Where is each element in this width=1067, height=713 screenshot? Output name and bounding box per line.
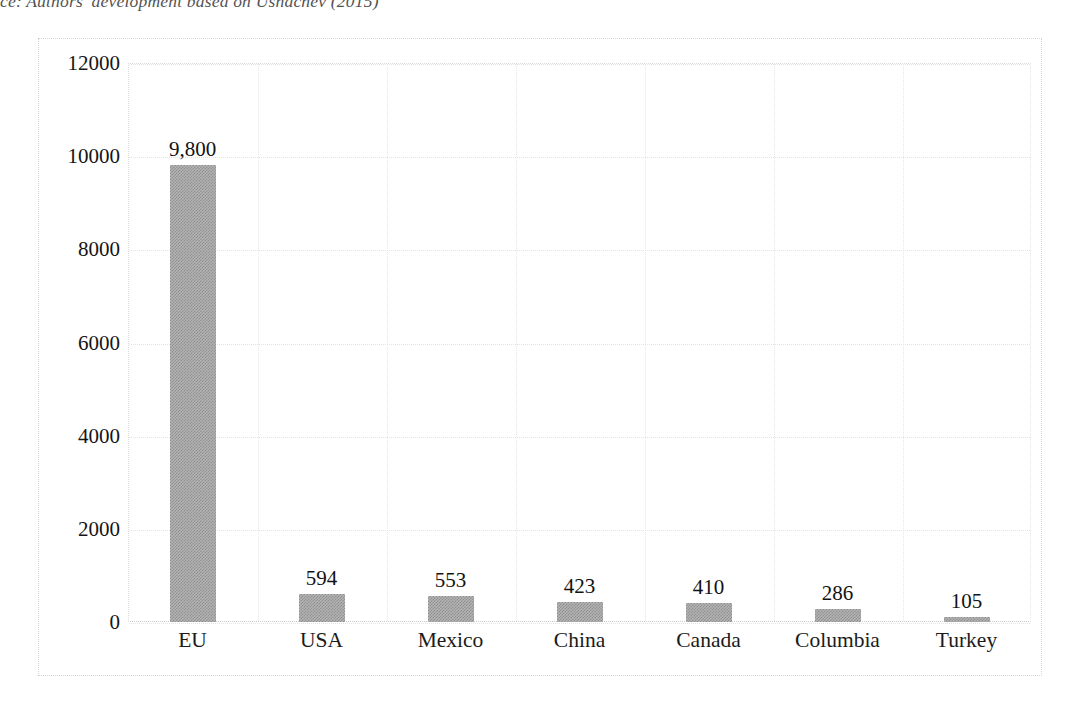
bar-slot: 553 bbox=[386, 63, 515, 622]
bar[interactable]: 423 bbox=[557, 602, 603, 622]
bar[interactable]: 594 bbox=[299, 594, 345, 622]
x-axis: EUUSAMexicoChinaCanadaColumbiaTurkey bbox=[128, 630, 1031, 652]
bar-slot: 594 bbox=[257, 63, 386, 622]
x-axis-tick-label: Canada bbox=[644, 630, 773, 652]
x-axis-tick-label: Turkey bbox=[902, 630, 1031, 652]
bar-value-label: 286 bbox=[822, 583, 854, 604]
bar[interactable]: 105 bbox=[944, 617, 990, 622]
x-axis-tick-label: EU bbox=[128, 630, 257, 652]
gridline-horizontal bbox=[129, 623, 1030, 624]
bar[interactable]: 553 bbox=[428, 596, 474, 622]
bar-value-label: 9,800 bbox=[169, 139, 216, 160]
y-axis-tick-label: 2000 bbox=[34, 518, 120, 539]
figure-source-note: ce: Authors' development based on Ushach… bbox=[0, 0, 700, 13]
bar-slot: 9,800 bbox=[128, 63, 257, 622]
bar[interactable]: 410 bbox=[686, 603, 732, 622]
bar-value-label: 410 bbox=[693, 577, 725, 598]
bar-value-label: 594 bbox=[306, 568, 338, 589]
x-axis-tick-label: Mexico bbox=[386, 630, 515, 652]
y-axis-tick-label: 6000 bbox=[34, 332, 120, 353]
x-axis-tick-label: USA bbox=[257, 630, 386, 652]
bar-slot: 410 bbox=[644, 63, 773, 622]
bar-value-label: 105 bbox=[951, 591, 983, 612]
y-axis-tick-label: 10000 bbox=[34, 146, 120, 167]
bar-slot: 423 bbox=[515, 63, 644, 622]
bar-slot: 105 bbox=[902, 63, 1031, 622]
y-axis-tick-label: 12000 bbox=[34, 53, 120, 74]
bar-value-label: 423 bbox=[564, 576, 596, 597]
bar-slot: 286 bbox=[773, 63, 902, 622]
y-axis-tick-label: 4000 bbox=[34, 425, 120, 446]
bar-value-label: 553 bbox=[435, 570, 467, 591]
x-axis-tick-label: Columbia bbox=[773, 630, 902, 652]
y-axis-tick-label: 8000 bbox=[34, 239, 120, 260]
y-axis-tick-label: 0 bbox=[34, 612, 120, 633]
bar[interactable]: 286 bbox=[815, 609, 861, 622]
bar[interactable]: 9,800 bbox=[170, 165, 216, 622]
bar-series: 9,800594553423410286105 bbox=[128, 63, 1031, 622]
x-axis-tick-label: China bbox=[515, 630, 644, 652]
y-axis: 020004000600080001000012000 bbox=[24, 63, 120, 622]
